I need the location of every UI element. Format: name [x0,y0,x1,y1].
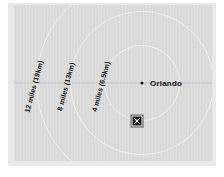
city-label: Orlando [150,79,182,88]
map-canvas[interactable]: Orlando 12 miles (19km) 8 miles (13km) 4… [14,5,212,161]
city-center-dot [141,82,144,85]
site-marker[interactable] [131,115,144,128]
center-reference-line [14,83,212,84]
map-figure: Orlando 12 miles (19km) 8 miles (13km) 4… [0,0,224,177]
x-mark-icon [133,117,142,126]
